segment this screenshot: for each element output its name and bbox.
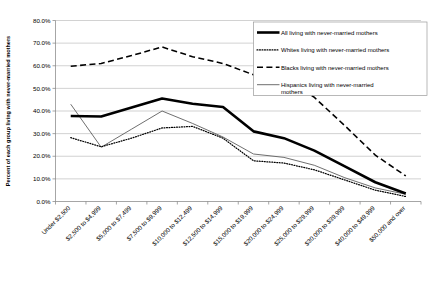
legend-item-whites-label: Whites living with never-married mothers	[281, 47, 389, 53]
y-axis-tick-label: 80.0%	[33, 17, 51, 24]
chart-container: 0.0%10.0%20.0%30.0%40.0%50.0%60.0%70.0%8…	[0, 0, 430, 286]
y-axis-tick-label: 50.0%	[33, 85, 51, 92]
y-axis-tick-label: 60.0%	[33, 62, 51, 69]
line-chart: 0.0%10.0%20.0%30.0%40.0%50.0%60.0%70.0%8…	[0, 0, 430, 286]
legend-item-hispanics-label-line2: mothers	[281, 89, 303, 95]
y-axis-tick-label: 70.0%	[33, 39, 51, 46]
y-axis-tick-label: 10.0%	[33, 175, 51, 182]
legend-item-blacks-label: Blacks living with never-married mothers	[281, 65, 389, 71]
y-axis-tick-label: 20.0%	[33, 152, 51, 159]
legend-item-all-label: All living with never-married mothers	[281, 30, 378, 36]
x-axis-tick-label: Under $2,500	[40, 204, 72, 236]
legend-item-hispanics-label: Hispanics living with never-married	[281, 82, 374, 88]
y-axis-tick-label: 40.0%	[33, 107, 51, 114]
y-axis-tick-label: 30.0%	[33, 130, 51, 137]
y-axis-tick-label: 0.0%	[36, 198, 51, 205]
y-axis-title: Percent of each group living with never-…	[5, 36, 11, 186]
